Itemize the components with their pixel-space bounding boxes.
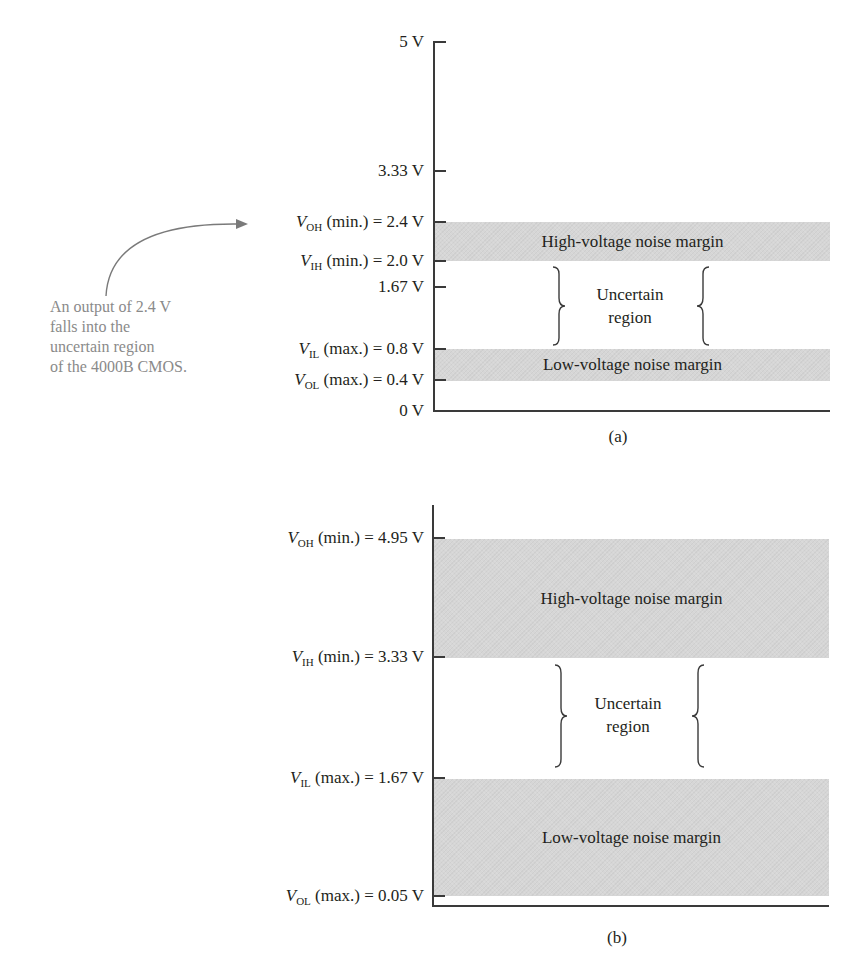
diagram-b-label-vol: VOL (max.) = 0.05 V	[286, 886, 424, 906]
diagram-a-label-3.33v: 3.33 V	[378, 161, 424, 181]
symbol: V	[300, 251, 310, 270]
diagram-b-tick-vil	[433, 777, 445, 779]
diagram-b-tick-voh	[433, 537, 445, 539]
diagram-a-low-noise-margin-label: Low-voltage noise margin	[543, 355, 722, 375]
qualifier: (max.) = 0.8 V	[319, 339, 424, 358]
annotation-text: An output of 2.4 V falls into the uncert…	[50, 297, 187, 377]
annotation-line: uncertain region	[50, 337, 187, 357]
qualifier: (min.) = 4.95 V	[314, 528, 424, 547]
uncertain-line-1: Uncertain	[575, 283, 685, 306]
diagram-b-low-noise-margin-band: Low-voltage noise margin	[434, 779, 829, 896]
right-brace-icon	[551, 266, 567, 346]
diagram-a-label-1.67v: 1.67 V	[378, 277, 424, 297]
diagram-a-label-0v: 0 V	[399, 401, 424, 421]
subscript: IL	[300, 777, 310, 789]
symbol: V	[286, 886, 296, 905]
annotation-arrow-icon	[100, 210, 260, 300]
subscript: IH	[302, 656, 314, 668]
qualifier: (max.) = 0.4 V	[319, 370, 424, 389]
subscript: OH	[298, 537, 314, 549]
diagram-a-tick-5v	[434, 41, 446, 43]
symbol: V	[299, 339, 309, 358]
diagram-b-label-vil: VIL (max.) = 1.67 V	[290, 768, 424, 788]
diagram-a-low-noise-margin-band: Low-voltage noise margin	[435, 349, 830, 381]
diagram-a-x-axis	[433, 410, 830, 412]
uncertain-line-2: region	[573, 715, 683, 738]
diagram-a-tick-1.67v	[434, 286, 446, 288]
diagram-b-high-noise-margin-label: High-voltage noise margin	[541, 589, 723, 609]
diagram-a-label-5v: 5 V	[399, 32, 424, 52]
uncertain-line-2: region	[575, 306, 685, 329]
qualifier: (min.) = 2.0 V	[322, 251, 424, 270]
diagram-a-uncertain-region-label: Uncertain region	[575, 283, 685, 329]
qualifier: (min.) = 2.4 V	[322, 212, 424, 231]
symbol: V	[292, 647, 302, 666]
diagram-a-tick-vol	[434, 379, 446, 381]
symbol: V	[287, 528, 297, 547]
right-brace-icon	[553, 664, 569, 768]
label-text: 0 V	[399, 401, 424, 420]
diagram-b-label-vih: VIH (min.) = 3.33 V	[292, 647, 424, 667]
symbol: V	[294, 370, 304, 389]
diagram-b-label-voh: VOH (min.) = 4.95 V	[287, 528, 424, 548]
diagram-a-tick-vih	[434, 260, 446, 262]
diagram-b-caption: (b)	[597, 928, 637, 948]
label-text: 1.67 V	[378, 277, 424, 296]
diagram-a-label-vol: VOL (max.) = 0.4 V	[294, 370, 424, 390]
left-brace-icon	[690, 664, 706, 768]
qualifier: (max.) = 1.67 V	[311, 768, 424, 787]
diagram-a-tick-vil	[434, 348, 446, 350]
subscript: OL	[296, 895, 311, 907]
qualifier: (min.) = 3.33 V	[314, 647, 424, 666]
label-text: 3.33 V	[378, 161, 424, 180]
label-text: 5 V	[399, 32, 424, 51]
annotation-line: of the 4000B CMOS.	[50, 357, 187, 377]
diagram-a-label-voh: VOH (min.) = 2.4 V	[296, 212, 424, 232]
annotation-line: falls into the	[50, 317, 187, 337]
subscript: IL	[309, 348, 319, 360]
symbol: V	[296, 212, 306, 231]
diagram-b-x-axis	[432, 905, 829, 907]
diagram-a-high-noise-margin-label: High-voltage noise margin	[542, 232, 724, 252]
uncertain-line-1: Uncertain	[573, 692, 683, 715]
diagram-a-caption: (a)	[598, 427, 638, 447]
diagram-b-tick-vih	[433, 656, 445, 658]
symbol: V	[290, 768, 300, 787]
diagram-a-tick-3.33v	[434, 170, 446, 172]
diagram-a-label-vih: VIH (min.) = 2.0 V	[300, 251, 424, 271]
diagram-a-label-vil: VIL (max.) = 0.8 V	[299, 339, 424, 359]
subscript: IH	[311, 260, 323, 272]
diagram-b-high-noise-margin-band: High-voltage noise margin	[434, 539, 829, 658]
annotation-line: An output of 2.4 V	[50, 297, 187, 317]
diagram-a-high-noise-margin-band: High-voltage noise margin	[435, 222, 830, 261]
left-brace-icon	[695, 266, 711, 346]
diagram-a-tick-voh	[434, 221, 446, 223]
diagram-b-tick-vol	[433, 895, 445, 897]
subscript: OH	[306, 221, 322, 233]
diagram-b-uncertain-region-label: Uncertain region	[573, 692, 683, 738]
diagram-b-low-noise-margin-label: Low-voltage noise margin	[542, 828, 721, 848]
subscript: OL	[305, 379, 320, 391]
qualifier: (max.) = 0.05 V	[311, 886, 424, 905]
